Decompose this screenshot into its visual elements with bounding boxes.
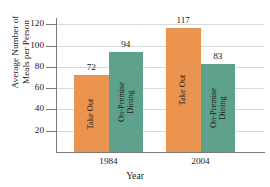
x-axis-group-label: 1984: [74, 156, 143, 166]
bar-series-label-line1: On-Premise: [208, 88, 217, 128]
bar-chart: Average Number of Meals per Person 20406…: [0, 0, 270, 187]
bar-series-label: Take Out: [179, 74, 188, 105]
y-axis-tick-label: 60: [14, 83, 44, 92]
bar-series-label-line1: Take Out: [87, 98, 96, 129]
bar-value-label: 72: [74, 63, 109, 72]
x-axis-title: Year: [0, 170, 270, 181]
x-axis-group-label: 2004: [166, 156, 235, 166]
bar-value-label: 94: [109, 40, 144, 49]
bar-series-label-line1: On-Premise: [116, 82, 125, 122]
bar-series-label: Take Out: [87, 98, 96, 129]
y-axis-tick-label: 40: [14, 104, 44, 113]
y-axis-tick-label: 20: [14, 126, 44, 135]
bar-series-label-line2: Dining: [126, 82, 135, 122]
bar-value-label: 117: [166, 16, 201, 25]
y-axis-tick-label: 120: [14, 19, 44, 28]
bar-on-premise-dining-2004[interactable]: On-PremiseDining: [201, 64, 236, 152]
plot-area: Take Out72On-PremiseDining94Take Out117O…: [57, 18, 264, 152]
bar-take-out-2004[interactable]: Take Out: [166, 28, 201, 152]
bar-series-label: On-PremiseDining: [116, 82, 135, 122]
x-axis-line: [56, 152, 265, 153]
y-axis-tick-label: 100: [14, 41, 44, 50]
bar-value-label: 83: [201, 52, 236, 61]
bar-take-out-1984[interactable]: Take Out: [74, 75, 109, 152]
bar-series-label: On-PremiseDining: [208, 88, 227, 128]
bar-series-label-line2: Dining: [218, 88, 227, 128]
bar-series-label-line1: Take Out: [179, 74, 188, 105]
y-axis-tick-label: 80: [14, 62, 44, 71]
bar-on-premise-dining-1984[interactable]: On-PremiseDining: [109, 52, 144, 152]
